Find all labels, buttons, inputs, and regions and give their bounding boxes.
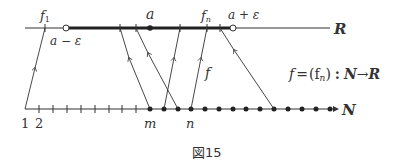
label-n: n [186, 116, 194, 131]
mapping-formula: f=(fn):N→R [288, 66, 380, 83]
open-circle-a-plus-eps [230, 25, 236, 31]
r-axis-label: R [333, 20, 346, 38]
open-circle-a-minus-eps [63, 25, 69, 31]
label-1: 1 [21, 116, 29, 131]
limit-point-a [147, 25, 153, 31]
n-axis-label: N [341, 101, 357, 119]
label-a-plus-eps: a + ε [228, 8, 259, 22]
label-fn: fn [200, 8, 211, 24]
label-a-minus-eps: a − ε [50, 34, 81, 48]
sequence-convergence-diagram: R f1 a fn a − ε a + ε [0, 0, 404, 163]
arrow-label-f: f [204, 65, 213, 81]
label-a: a [146, 6, 154, 22]
figure-caption: 図15 [192, 145, 222, 160]
label-2: 2 [35, 116, 43, 131]
label-f1: f1 [39, 8, 50, 24]
label-m: m [144, 116, 156, 131]
